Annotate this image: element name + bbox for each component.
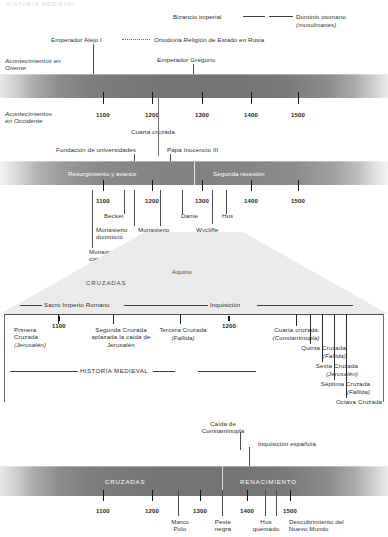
detail-item-octava-name: Octava Cruzada xyxy=(268,398,382,405)
legend-ottoman-sublabel: (musulmanes) xyxy=(296,21,336,28)
summary-event-peste-negra: Peste negra xyxy=(207,518,239,533)
west-event-inocencio-label: Papa Inocencio III xyxy=(167,146,218,153)
detail-rule-sacro-right xyxy=(124,305,208,306)
west-band-divider xyxy=(194,161,195,185)
east-timeline-band xyxy=(0,74,388,98)
summary-tick-1200 xyxy=(152,490,153,501)
summary-event-hus-quemado: Hus quemado xyxy=(246,518,286,533)
west-tick-label-1400: 1400 xyxy=(241,112,261,118)
figures-tick-label-1300: 1300 xyxy=(192,198,212,204)
timeline-infographic: HISTORIA MEDIEVAL Bizancio imperial Domi… xyxy=(0,0,388,537)
detail-item-primera-name: Primera Cruzada xyxy=(14,326,38,341)
detail-leader-constantinopla xyxy=(240,432,241,450)
figures-tick-1400 xyxy=(251,180,252,191)
figures-tick-label-1100: 1100 xyxy=(93,198,113,204)
detail-event-inquisicion-espanola: Inquisición española xyxy=(258,440,316,447)
detail-item-tercera-name: Tercera Cruzada xyxy=(150,326,216,333)
west-band-label-recesion: Segunda recesión xyxy=(213,170,264,177)
figures-label-dominicio: Monasterio dominicio xyxy=(96,226,128,241)
summary-tick-1300 xyxy=(200,490,201,501)
east-leader-gregorio xyxy=(193,64,194,74)
summary-band-highlight xyxy=(0,466,388,467)
east-connector-dotted xyxy=(122,39,150,40)
figures-tick-label-1200: 1200 xyxy=(142,198,162,204)
figures-label-dante: Dante xyxy=(181,212,198,219)
summary-leader-nuevo-mundo xyxy=(276,490,277,516)
summary-timeline-band xyxy=(0,466,388,496)
figures-leader-becket xyxy=(124,190,125,214)
east-leader-alejo xyxy=(93,44,94,74)
wedge-label-cruzadas: CRUZADAS xyxy=(86,279,126,286)
detail-item-primera-note: (Jerusalén) xyxy=(14,341,46,348)
west-tick-1200 xyxy=(152,92,153,104)
summary-event-marco-polo: Marco Polo xyxy=(164,518,196,533)
west-tick-1100 xyxy=(103,92,104,104)
detail-item-septima-name: Séptima Cruzada xyxy=(258,380,370,387)
detail-center-rule-mid xyxy=(153,371,175,372)
east-band-highlight xyxy=(0,74,388,75)
detail-leader-inquisicion-espanola xyxy=(249,447,250,467)
detail-item-cuarta-note: (Constantinopla) xyxy=(246,334,346,341)
detail-center-rule-right xyxy=(198,371,256,372)
summary-band-label-renacimiento: RENACIMIENTO xyxy=(240,478,297,485)
west-tick-label-1500: 1500 xyxy=(288,112,308,118)
detail-item-quinta-name: Quinta Cruzada xyxy=(236,344,346,351)
east-event-alejo-label: Emperador Alejo I xyxy=(51,36,102,43)
west-axis-label-line2: en Occidente xyxy=(5,117,43,124)
figures-leader-dominicio xyxy=(134,190,135,226)
detail-tick-label-1200: 1200 xyxy=(219,323,239,329)
west-event-universidades-label: Fundación de universidades xyxy=(56,146,136,153)
detail-frame-right xyxy=(383,314,384,402)
summary-tick-label-1100: 1100 xyxy=(93,508,113,514)
detail-item-quinta-note: (Fallida) xyxy=(236,352,346,359)
detail-leader-segunda xyxy=(113,314,114,324)
legend-byzantine-label: Bizancio imperial xyxy=(173,13,221,20)
figures-label-becket: Becket xyxy=(104,212,124,219)
summary-tick-1100 xyxy=(103,490,104,501)
west-divider-line xyxy=(158,98,159,156)
west-tick-label-1200: 1200 xyxy=(142,112,162,118)
detail-axis-line xyxy=(4,314,384,315)
west-tick-1300 xyxy=(202,92,203,104)
figures-leader-cisterciense xyxy=(92,190,93,248)
legend-rule-left xyxy=(243,16,265,17)
detail-event-constantinopla: Caída de Constantinopla xyxy=(183,420,263,435)
detail-span-sacro-imperio: Sacro Imperio Romano xyxy=(44,301,110,308)
detail-leader-tercera xyxy=(180,314,181,324)
summary-tick-1500 xyxy=(290,490,291,501)
figures-label-hus: Hus xyxy=(222,212,233,219)
detail-item-cuarta-name: Cuarta cruzada xyxy=(246,326,346,333)
figures-leader-dante xyxy=(182,190,183,214)
figures-leader-franciscano xyxy=(160,190,161,226)
legend-rule-right xyxy=(269,16,293,17)
detail-center-label: HISTORIA MEDIEVAL xyxy=(80,367,148,374)
detail-item-septima-note: (Fallida) xyxy=(258,388,370,395)
wedge-label-aquino: Aquino xyxy=(172,268,192,275)
summary-leader-peste-negra xyxy=(222,490,223,516)
detail-span-inquisicion: Inquisición xyxy=(210,301,240,308)
west-tick-label-1300: 1300 xyxy=(192,112,212,118)
detail-item-sexta-note: (Jerusalén) xyxy=(248,370,358,377)
west-event-cuarta-cruzada-label: Cuarta cruzada xyxy=(131,128,175,135)
east-axis-label-line2: Oriente xyxy=(5,64,26,71)
detail-item-sexta-name: Sexta Cruzada xyxy=(248,362,358,369)
detail-rule-sacro-left xyxy=(20,305,42,306)
summary-band-label-cruzadas: CRUZADAS xyxy=(105,478,145,485)
detail-tick-mark-1100 xyxy=(58,316,60,321)
legend-ottoman-label: Dominio otomano xyxy=(296,13,346,20)
figures-tick-1500 xyxy=(298,180,299,191)
figures-tick-label-1500: 1500 xyxy=(288,198,308,204)
east-event-ortodoxia-label: Ortodoxia Religión de Estado en Rusia xyxy=(154,36,264,43)
detail-tick-label-1100: 1100 xyxy=(49,323,69,329)
figures-tick-1300 xyxy=(202,180,203,191)
detail-rule-inquisicion xyxy=(257,305,353,306)
figures-tick-label-1400: 1400 xyxy=(241,198,261,204)
summary-leader-hus-quemado xyxy=(265,490,266,516)
detail-tick-mark-1200 xyxy=(228,316,230,321)
figures-leader-hus xyxy=(226,190,227,214)
figures-leader-wycliffe xyxy=(212,190,213,224)
summary-event-nuevo-mundo: Descubrimiento del Nuevo Mundo xyxy=(289,518,344,533)
east-event-gregorio-label: Emperador Gregorio xyxy=(157,56,215,63)
summary-tick-label-1300: 1300 xyxy=(190,508,210,514)
summary-tick-label-1400: 1400 xyxy=(237,508,257,514)
